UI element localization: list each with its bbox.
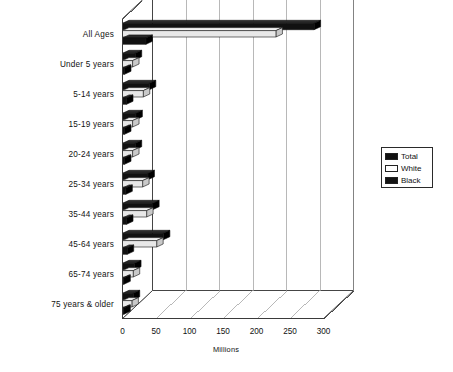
legend-swatch-black [385, 177, 398, 184]
bar-top-face [123, 28, 283, 31]
bar-chart: All AgesUnder 5 years5-14 years15-19 yea… [0, 0, 453, 372]
bar-front-face [123, 188, 126, 194]
bar-front-face [123, 98, 127, 104]
bar-0-2 [123, 35, 153, 44]
legend-label-total: Total [401, 153, 418, 161]
x-tick-label-150: 150 [216, 327, 230, 336]
x-tick-label-50: 50 [151, 327, 160, 336]
legend-item-black: Black [385, 175, 429, 186]
bar-top-face [123, 20, 321, 23]
x-tick-label-200: 200 [250, 327, 264, 336]
legend-item-white: White [385, 163, 429, 174]
bar-front-face [123, 218, 127, 224]
bar-2-1 [123, 88, 150, 97]
x-tick-label-300: 300 [317, 327, 331, 336]
legend-label-black: Black [401, 177, 421, 185]
bar-top-face [123, 230, 170, 233]
x-tick-label-250: 250 [283, 327, 297, 336]
x-axis-title: Millions [213, 345, 239, 354]
bar-5-1 [123, 178, 150, 187]
legend-label-white: White [401, 165, 421, 173]
legend-swatch-total [385, 153, 398, 160]
x-tick-label-100: 100 [183, 327, 197, 336]
legend-item-total: Total [385, 151, 429, 162]
chart-legend: Total White Black [381, 147, 433, 188]
bar-front-face [123, 248, 128, 254]
bar-front-face [123, 38, 146, 44]
legend-swatch-white [385, 165, 398, 172]
plot-frame [123, 0, 354, 319]
x-tick-label-0: 0 [120, 327, 125, 336]
